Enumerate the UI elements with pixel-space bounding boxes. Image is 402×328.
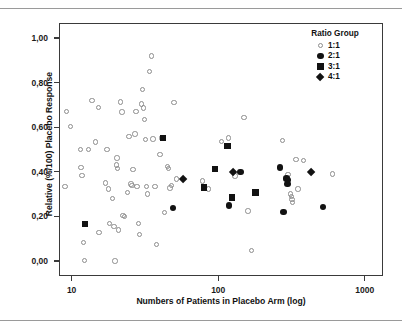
data-point-1-1	[301, 158, 306, 163]
data-point-1-1	[137, 232, 142, 237]
data-point-3-1	[224, 143, 231, 150]
filled-circle-icon	[316, 53, 325, 59]
y-axis-label: Relative (%/100) Placebo Response	[44, 18, 54, 271]
data-point-1-1	[149, 53, 154, 58]
data-point-2-1	[277, 164, 283, 170]
data-point-2-1	[226, 202, 232, 208]
data-point-1-1	[171, 100, 176, 105]
data-point-1-1	[122, 214, 127, 219]
data-point-3-1	[201, 184, 208, 191]
x-axis-tick-label: 10	[52, 285, 92, 295]
legend-entries: 1:12:13:14:1	[296, 40, 374, 82]
data-point-1-1	[118, 99, 123, 104]
data-point-1-1	[81, 240, 86, 245]
data-point-1-1	[132, 131, 137, 136]
data-point-1-1	[249, 248, 254, 253]
data-point-1-1	[280, 138, 285, 143]
data-point-1-1	[154, 242, 159, 247]
data-point-1-1	[106, 186, 111, 191]
data-point-1-1	[93, 139, 98, 144]
legend-entry-label: 1:1	[328, 41, 340, 50]
legend-entry-1-1: 1:1	[296, 40, 374, 51]
data-point-1-1	[125, 190, 130, 195]
data-point-1-1	[150, 136, 155, 141]
data-point-1-1	[114, 155, 119, 160]
data-point-1-1	[142, 117, 147, 122]
data-point-1-1	[293, 157, 298, 162]
data-point-1-1	[219, 139, 224, 144]
x-axis-tick	[218, 276, 219, 281]
legend-entry-2-1: 2:1	[296, 51, 374, 62]
x-axis-tick-label: 1000	[345, 285, 385, 295]
data-point-1-1	[110, 196, 115, 201]
data-point-1-1	[116, 227, 121, 232]
data-point-1-1	[112, 258, 117, 263]
data-point-1-1	[126, 134, 131, 139]
data-point-3-1	[82, 221, 89, 228]
data-point-1-1	[226, 135, 231, 140]
legend-title: Ratio Group	[296, 29, 374, 38]
legend: Ratio Group 1:12:13:14:1	[296, 29, 374, 82]
data-point-1-1	[144, 184, 149, 189]
data-point-1-1	[162, 210, 167, 215]
open-circle-icon	[316, 43, 325, 48]
data-point-1-1	[169, 183, 174, 188]
data-point-1-1	[145, 191, 150, 196]
scatter-plot-figure: 1010010000,000,200,400,600,801,00 Number…	[0, 0, 402, 328]
data-point-1-1	[62, 184, 67, 189]
data-point-1-1	[96, 230, 101, 235]
data-point-1-1	[133, 109, 138, 114]
legend-entry-4-1: 4:1	[296, 72, 374, 83]
data-point-1-1	[82, 258, 87, 263]
data-point-1-1	[157, 152, 162, 157]
data-point-1-1	[140, 87, 145, 92]
data-point-2-1	[280, 209, 286, 215]
filled-square-icon	[316, 63, 325, 70]
legend-entry-label: 3:1	[328, 62, 340, 71]
data-point-1-1	[136, 221, 141, 226]
data-point-1-1	[200, 178, 205, 183]
data-point-3-1	[160, 135, 167, 142]
legend-entry-3-1: 3:1	[296, 61, 374, 72]
data-point-2-1	[237, 169, 243, 175]
data-point-1-1	[241, 115, 246, 120]
data-point-2-1	[320, 204, 326, 210]
data-point-1-1	[104, 147, 109, 152]
legend-entry-label: 2:1	[328, 51, 340, 60]
data-point-3-1	[252, 189, 259, 196]
data-point-1-1	[143, 137, 148, 142]
data-point-1-1	[86, 147, 91, 152]
data-point-1-1	[119, 109, 124, 114]
filled-diamond-icon	[316, 74, 325, 80]
data-point-1-1	[89, 98, 94, 103]
data-point-1-1	[103, 180, 108, 185]
data-point-3-1	[229, 194, 236, 201]
data-point-3-1	[212, 166, 219, 173]
data-point-1-1	[141, 105, 146, 110]
data-point-1-1	[245, 208, 250, 213]
data-point-1-1	[166, 166, 171, 171]
data-point-1-1	[78, 165, 83, 170]
x-axis-tick-label: 100	[198, 285, 238, 295]
data-point-4-1	[307, 168, 316, 177]
data-point-4-1	[179, 175, 188, 184]
data-point-1-1	[96, 105, 101, 110]
data-point-2-1	[170, 205, 176, 211]
data-point-1-1	[330, 171, 335, 176]
data-point-1-1	[134, 184, 139, 189]
data-point-1-1	[78, 147, 83, 152]
data-point-1-1	[295, 186, 300, 191]
data-point-1-1	[64, 109, 69, 114]
x-axis-label: Numbers of Patients in Placebo Arm (log)	[59, 296, 383, 306]
data-point-1-1	[68, 124, 73, 129]
x-axis-tick	[71, 276, 72, 281]
data-point-1-1	[152, 184, 157, 189]
data-point-1-1	[147, 69, 152, 74]
data-point-1-1	[290, 200, 295, 205]
data-point-1-1	[79, 173, 84, 178]
data-point-1-1	[130, 167, 135, 172]
data-point-1-1	[115, 166, 120, 171]
legend-entry-label: 4:1	[328, 72, 340, 81]
x-axis-tick	[364, 276, 365, 281]
